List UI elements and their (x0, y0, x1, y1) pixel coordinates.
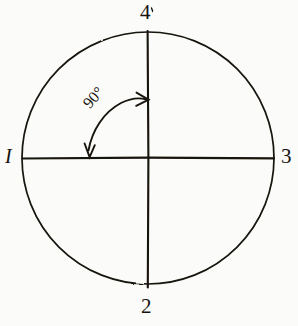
quadrant-label-right: 3 (281, 146, 292, 167)
quadrant-label-top: 4 (140, 2, 151, 23)
tick-mark-top (152, 8, 153, 12)
quadrant-label-left: I (5, 146, 12, 166)
quadrant-label-bottom: 2 (141, 296, 152, 317)
vertical-axis-line (148, 31, 149, 288)
figure-canvas: 4 2 I 3 90° (0, 0, 298, 326)
circle-diagram (0, 0, 298, 326)
